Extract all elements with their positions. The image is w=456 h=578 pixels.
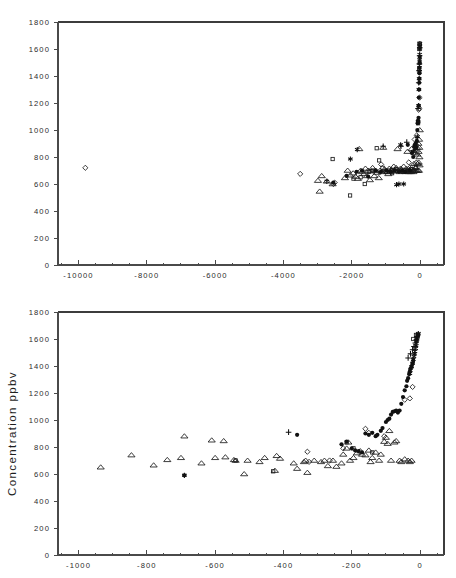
data-point-open-triangle [394,146,401,150]
data-point-open-triangle [344,168,351,172]
data-point-open-triangle [276,456,283,460]
data-point-asterisk [348,156,353,161]
data-point-open-triangle [220,438,227,442]
data-point-filled-circle [411,155,415,159]
data-point-open-triangle [150,463,157,467]
y-tick-label: 1200 [29,99,50,108]
data-point-filled-circle [387,417,391,421]
data-point-plus [380,143,386,149]
x-tick-label: -800 [137,561,157,570]
y-tick-label: 200 [34,524,50,533]
data-point-filled-circle [389,170,393,174]
data-point-asterisk [355,147,360,152]
data-layer [83,41,424,197]
y-tick-label: 1600 [29,335,50,344]
data-point-open-triangle [340,452,347,456]
x-tick-label: 0 [417,561,422,570]
figure-container: 020040060080010001200140016001800-10000-… [0,0,456,578]
y-tick-label: 800 [34,443,50,452]
data-point-open-triangle [367,459,374,463]
data-point-open-triangle [181,434,188,438]
y-tick-label: 1400 [29,362,50,371]
data-point-open-triangle [350,455,357,459]
x-tick-label: -8000 [134,271,159,280]
chart-panel-top: 020040060080010001200140016001800-10000-… [0,0,456,288]
data-point-open-triangle [198,461,205,465]
data-point-open-triangle [318,173,325,177]
x-tick-label: -400 [274,561,294,570]
data-point-open-square [348,194,351,197]
data-point-asterisk [401,181,406,186]
series-plus [286,334,420,435]
data-point-open-square [377,159,380,162]
data-point-filled-circle [345,174,349,178]
y-tick-label: 0 [45,261,50,270]
y-tick-label: 400 [34,497,50,506]
scatter-plot-top: 020040060080010001200140016001800-10000-… [0,0,456,288]
data-point-filled-circle [295,433,299,437]
data-point-filled-circle [366,174,370,178]
x-tick-label: -10000 [63,271,93,280]
data-point-filled-circle [339,442,343,446]
data-point-open-triangle [387,458,394,462]
scatter-plot-bottom: 020040060080010001200140016001800-1000-8… [0,290,456,578]
data-point-filled-circle [375,433,379,437]
data-point-filled-circle [380,426,384,430]
data-point-open-triangle [304,470,311,474]
data-point-open-triangle [314,178,321,182]
series-square [234,333,418,473]
series-asterisk [325,41,423,187]
y-tick-label: 600 [34,470,50,479]
data-point-open-diamond [407,396,412,401]
data-point-filled-circle [374,168,378,172]
data-point-filled-circle [397,408,401,412]
y-tick-label: 800 [34,153,50,162]
data-point-open-diamond [363,426,368,431]
data-point-filled-circle [331,181,335,185]
data-point-filled-circle [403,170,407,174]
y-tick-label: 1800 [29,308,50,317]
data-point-filled-circle [360,168,364,172]
data-point-open-triangle [212,455,219,459]
data-point-plus [416,80,422,86]
data-point-open-triangle [261,455,268,459]
y-tick-label: 400 [34,207,50,216]
data-point-open-triangle [324,463,331,467]
data-point-open-triangle [416,155,423,159]
series-filled-circle [331,55,422,185]
x-tick-label: -1000 [66,561,91,570]
data-point-filled-circle [401,395,405,399]
y-tick-label: 1400 [29,72,50,81]
data-point-open-triangle [256,459,263,463]
data-point-open-triangle [244,458,251,462]
data-point-open-triangle [365,448,372,452]
data-point-open-square [375,147,378,150]
data-point-open-triangle [398,459,405,463]
data-point-open-triangle [241,472,248,476]
data-point-open-diamond [410,384,415,389]
data-point-filled-circle [406,376,410,380]
chart-panel-bottom: 020040060080010001200140016001800-1000-8… [0,290,456,578]
data-point-open-triangle [369,455,376,459]
y-tick-label: 200 [34,234,50,243]
data-point-open-triangle [338,461,345,465]
data-point-filled-circle [399,402,403,406]
data-point-plus [286,429,292,435]
data-point-filled-circle [360,450,364,454]
data-point-filled-circle [417,96,421,100]
data-point-filled-circle [385,168,389,172]
data-point-open-triangle [164,457,171,461]
x-tick-label: -2000 [339,271,364,280]
data-point-open-triangle [375,458,382,462]
data-point-open-triangle [386,428,393,432]
data-point-open-diamond [406,160,411,165]
x-tick-label: 0 [417,271,422,280]
series-asterisk [182,331,421,478]
data-point-open-triangle [222,455,229,459]
data-point-filled-circle [415,128,419,132]
x-tick-label: -200 [342,561,362,570]
data-point-filled-circle [379,170,383,174]
data-point-open-diamond [305,449,310,454]
data-point-open-triangle [346,458,353,462]
data-point-open-diamond [382,434,387,439]
